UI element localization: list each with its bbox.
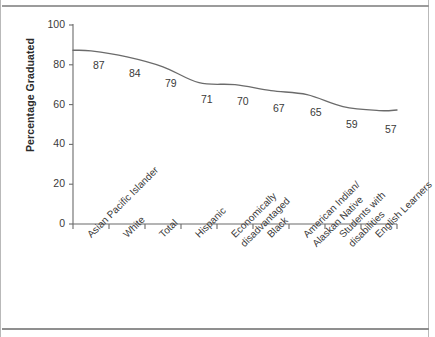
data-point-value-label: 70 — [237, 96, 249, 107]
y-axis-tick-label: 100 — [37, 19, 65, 30]
data-point-value-label: 71 — [201, 94, 213, 105]
data-point-value-label: 84 — [129, 68, 141, 79]
chart-plot-area — [1, 0, 430, 337]
line-chart: Percentage Graduated 100806040200 878479… — [1, 0, 430, 337]
y-axis-tick-label: 80 — [37, 59, 65, 70]
y-axis-tick-label: 60 — [37, 99, 65, 110]
data-point-value-label: 67 — [273, 103, 285, 114]
y-axis-tick-label: 40 — [37, 138, 65, 149]
data-series-line — [73, 50, 397, 111]
y-axis-tick-label: 20 — [37, 178, 65, 189]
y-axis-title: Percentage Graduated — [24, 0, 38, 195]
data-point-value-label: 57 — [385, 124, 397, 135]
y-axis-tick-label: 0 — [37, 218, 65, 229]
data-point-value-label: 65 — [310, 107, 322, 118]
data-point-value-label: 79 — [165, 78, 177, 89]
data-point-value-label: 59 — [346, 119, 358, 130]
data-point-value-label: 87 — [93, 60, 105, 71]
